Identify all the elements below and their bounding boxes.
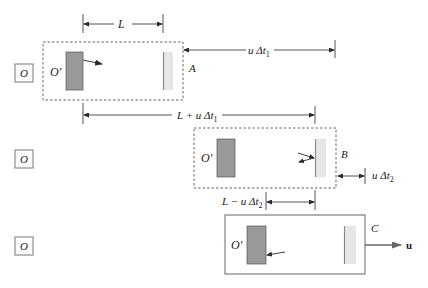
mirror [344, 226, 356, 264]
svg-text:O′: O′ [201, 151, 213, 165]
dimension-L-plus-u-dt1: L + u Δt1 [83, 103, 315, 124]
mirror [315, 139, 326, 177]
light-source [66, 52, 83, 90]
svg-text:O: O [20, 153, 28, 165]
label-L: L [117, 17, 125, 31]
panel-label-B: B [341, 148, 348, 160]
pulse-arrow-icon [83, 60, 102, 64]
relativity-light-clock-diagram: L O O′ A u Δt1 L + u Δt1 O O′ [0, 0, 428, 288]
observer-label: O [20, 67, 28, 79]
velocity-label: u⃗ [406, 239, 421, 251]
panel-A: O O′ A u Δt1 [15, 40, 335, 100]
panel-C: O O′ C u⃗ [15, 215, 421, 274]
label-u-dt2: u Δt2 [372, 169, 394, 184]
light-source [217, 139, 235, 177]
returning-pulse-arrow-icon [267, 252, 285, 255]
panel-label-C: C [371, 222, 379, 234]
frame-box-A [43, 42, 183, 100]
label-L-plus: L + u Δt1 [176, 109, 218, 124]
label-L-minus: L − u Δt2 [221, 195, 263, 210]
mirror [163, 52, 173, 90]
moving-frame-label: O′ [50, 65, 62, 79]
panel-label-A: A [188, 62, 196, 74]
light-source [247, 226, 266, 264]
svg-text:O′: O′ [231, 238, 243, 252]
frame-box-B [194, 128, 336, 188]
dimension-L: L [83, 14, 163, 33]
svg-text:O: O [20, 240, 28, 252]
label-u-dt1: u Δt1 [248, 44, 270, 59]
incoming-pulse-arrow-icon [298, 153, 314, 158]
reflected-pulse-arrow-icon [299, 158, 314, 162]
dimension-L-minus-u-dt2: L − u Δt2 [221, 190, 315, 210]
panel-B: O O′ B u Δt2 [15, 128, 394, 188]
